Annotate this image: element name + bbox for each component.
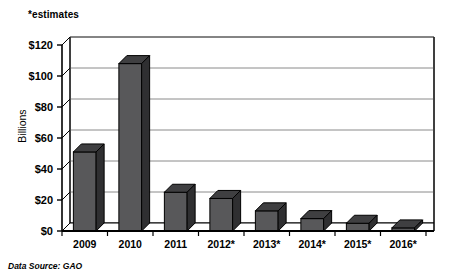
y-tick-label: $40: [35, 163, 53, 175]
x-tick-label: 2012*: [208, 238, 236, 250]
x-tick-label: 2010: [119, 238, 143, 250]
bar-2012: [210, 190, 241, 231]
y-tick-label: $120: [29, 39, 53, 51]
chart-container: *estimates Billions $0$20$40$60$80$100$1…: [0, 0, 452, 279]
bar-2011: [164, 184, 195, 231]
y-tick-label: $0: [41, 225, 53, 237]
axis-depth-connector: [62, 161, 70, 169]
bar-2009: [73, 144, 104, 231]
gridlines-group: [62, 37, 434, 231]
x-tick-label: 2015*: [344, 238, 372, 250]
bar-chart-plot: $0$20$40$60$80$100$120 2009201020112012*…: [0, 0, 452, 279]
x-tick-label: 2009: [73, 238, 97, 250]
y-tick-label: $80: [35, 101, 53, 113]
axis-depth-connector: [62, 192, 70, 200]
plot-floor: [62, 223, 434, 231]
y-tick-label: $100: [29, 70, 53, 82]
x-tick-labels-group: 2009201020112012*2013*2014*2015*2016*: [73, 238, 418, 250]
x-tick-label: 2014*: [299, 238, 327, 250]
data-source-note: Data Source: GAO: [8, 261, 82, 271]
axis-depth-connector: [62, 130, 70, 138]
y-tick-label: $60: [35, 132, 53, 144]
axis-top-connector: [62, 37, 70, 45]
bar-2014: [301, 211, 332, 231]
y-tick-label: $20: [35, 194, 53, 206]
x-tick-label: 2016*: [390, 238, 418, 250]
axis-depth-connector: [62, 99, 70, 107]
x-tick-label: 2013*: [253, 238, 281, 250]
bar-2010: [119, 56, 150, 231]
y-tick-labels-group: $0$20$40$60$80$100$120: [29, 39, 53, 237]
axis-depth-connector: [62, 68, 70, 76]
bar-2013: [255, 203, 286, 231]
x-tick-label: 2011: [164, 238, 187, 250]
